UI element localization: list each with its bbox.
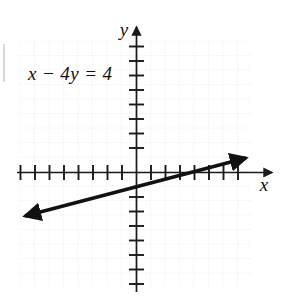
x-axis-label: x	[259, 174, 269, 195]
equation-annotation: x − 4y = 4	[27, 63, 113, 84]
page-edge-artifact	[3, 44, 5, 82]
y-axis-label: y	[118, 19, 129, 40]
coordinate-plane-svg: y x x − 4y = 4	[0, 0, 284, 303]
graph-figure: y x x − 4y = 4	[0, 0, 284, 303]
